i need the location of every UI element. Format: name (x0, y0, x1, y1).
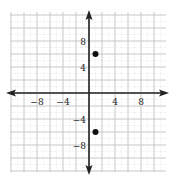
y-tick-label: 4 (80, 63, 86, 73)
data-point (93, 129, 99, 135)
x-tick-label: 4 (112, 97, 118, 107)
data-point (93, 51, 99, 57)
minor-gridlines (10, 12, 166, 172)
x-tick-label: −4 (56, 97, 70, 107)
coordinate-plane: −8−44884−4−8 (0, 0, 175, 180)
y-tick-label: −8 (73, 141, 87, 151)
major-gridlines (10, 12, 166, 172)
y-tick-label: 8 (80, 37, 86, 47)
x-tick-label: 8 (138, 97, 144, 107)
x-tick-label: −8 (30, 97, 44, 107)
y-tick-label: −4 (73, 115, 87, 125)
